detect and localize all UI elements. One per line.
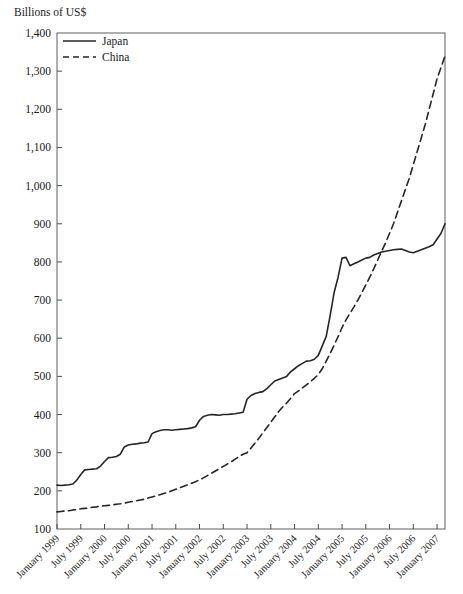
y-axis-tick-label: 1,300	[25, 65, 51, 78]
chart-legend: JapanChina	[63, 35, 129, 63]
series-line-japan	[57, 224, 445, 486]
y-axis-tick-label: 800	[34, 256, 52, 268]
y-axis-tick-label: 500	[34, 370, 52, 382]
y-axis-tick-marks	[57, 71, 62, 491]
x-axis-tick-marks	[57, 524, 437, 529]
y-axis-tick-label: 1,200	[25, 103, 51, 116]
series-line-china	[57, 56, 445, 512]
legend-label-china: China	[102, 51, 129, 63]
y-axis-tick-labels: 1002003004005006007008009001,0001,1001,2…	[25, 27, 51, 535]
y-axis-tick-label: 900	[34, 218, 52, 230]
line-chart: Billions of US$ 100200300400500600700800…	[0, 0, 463, 594]
y-axis-tick-label: 1,400	[25, 27, 51, 40]
y-axis-tick-label: 1,100	[25, 141, 51, 154]
y-axis-tick-label: 700	[34, 294, 52, 306]
y-axis-tick-label: 200	[34, 485, 52, 497]
y-axis-tick-label: 1,000	[25, 180, 51, 193]
plot-frame	[57, 33, 445, 529]
y-axis-tick-label: 400	[34, 409, 52, 421]
y-axis-tick-label: 600	[34, 332, 52, 344]
chart-axis-title: Billions of US$	[14, 6, 86, 18]
chart-container: Billions of US$ 100200300400500600700800…	[0, 0, 463, 594]
x-axis-tick-labels: January 1999July 1999January 2000July 20…	[14, 532, 442, 580]
y-axis-tick-label: 300	[34, 447, 52, 459]
legend-label-japan: Japan	[102, 35, 128, 48]
data-series-group	[57, 56, 445, 512]
y-axis-tick-label: 100	[34, 523, 52, 535]
